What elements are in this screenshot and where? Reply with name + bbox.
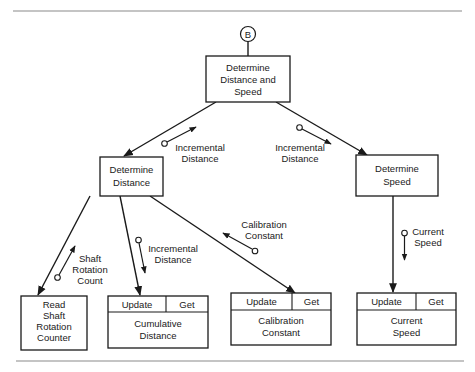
couple-label: Constant xyxy=(245,230,283,241)
data-object-label: Cumulative xyxy=(134,318,182,329)
module-label: Distance and xyxy=(220,74,275,85)
off-page-connector: B xyxy=(241,27,256,57)
data-object-label: Calibration xyxy=(258,315,303,326)
update-operation: Update xyxy=(122,299,153,310)
module-label: Determine xyxy=(375,163,419,174)
data-couple-circle-icon xyxy=(252,248,258,254)
couple-label: Incremental xyxy=(175,142,225,153)
couple-label: Speed xyxy=(414,237,441,248)
data-couple-circle-icon xyxy=(297,125,303,131)
structure-chart: B Determine Distance and Speed Determine… xyxy=(0,0,475,372)
get-operation: Get xyxy=(428,296,444,307)
module-label: Read xyxy=(43,299,66,310)
module-label: Speed xyxy=(383,176,410,187)
couple-label: Shaft xyxy=(79,253,102,264)
couple-calibration-constant: Calibration Constant xyxy=(223,219,287,254)
module-label: Rotation xyxy=(36,321,71,332)
module-determine-speed: Determine Speed xyxy=(356,155,438,196)
couple-label: Calibration xyxy=(241,219,286,230)
couple-label: Distance xyxy=(182,153,219,164)
module-label: Shaft xyxy=(43,310,66,321)
couple-label: Current xyxy=(412,226,444,237)
data-object-label: Distance xyxy=(140,330,177,341)
couple-label: Count xyxy=(77,275,103,286)
couple-shaft-rotation-count: Shaft Rotation Count xyxy=(55,246,108,286)
module-label: Counter xyxy=(37,332,71,343)
module-label: Determine xyxy=(226,62,270,73)
module-label: Distance xyxy=(113,177,150,188)
couple-label: Incremental xyxy=(275,142,325,153)
update-operation: Update xyxy=(246,296,277,307)
couple-incremental-distance-up: Incremental Distance xyxy=(162,127,225,164)
module-determine-distance: Determine Distance xyxy=(100,157,163,196)
data-object-current-speed: Update Get Current Speed xyxy=(357,293,456,345)
data-object-label: Constant xyxy=(262,327,300,338)
data-object-label: Speed xyxy=(393,327,420,338)
couple-label: Distance xyxy=(282,153,319,164)
data-object-label: Current xyxy=(391,315,423,326)
module-label: Speed xyxy=(234,86,261,97)
module-determine-distance-and-speed: Determine Distance and Speed xyxy=(206,56,290,102)
data-couple-circle-icon xyxy=(55,275,61,281)
module-label: Determine xyxy=(110,164,154,175)
data-couple-circle-icon xyxy=(136,237,142,243)
connector-label: B xyxy=(245,29,251,40)
data-object-cumulative-distance: Update Get Cumulative Distance xyxy=(108,296,208,348)
call-distance-to-cumulative xyxy=(120,196,140,295)
couple-current-speed: Current Speed xyxy=(402,226,444,260)
data-object-calibration-constant: Update Get Calibration Constant xyxy=(231,293,331,345)
module-read-shaft-rotation-counter: Read Shaft Rotation Counter xyxy=(21,296,87,350)
couple-incremental-distance-to-cumulative: Incremental Distance xyxy=(136,237,198,273)
data-couple-circle-icon xyxy=(162,141,168,147)
data-couple-circle-icon xyxy=(402,230,408,236)
couple-label: Distance xyxy=(155,254,192,265)
get-operation: Get xyxy=(304,296,320,307)
couple-incremental-distance-down: Incremental Distance xyxy=(275,125,331,164)
couple-label: Rotation xyxy=(72,264,107,275)
get-operation: Get xyxy=(179,299,195,310)
couple-label: Incremental xyxy=(148,243,198,254)
update-operation: Update xyxy=(371,296,402,307)
